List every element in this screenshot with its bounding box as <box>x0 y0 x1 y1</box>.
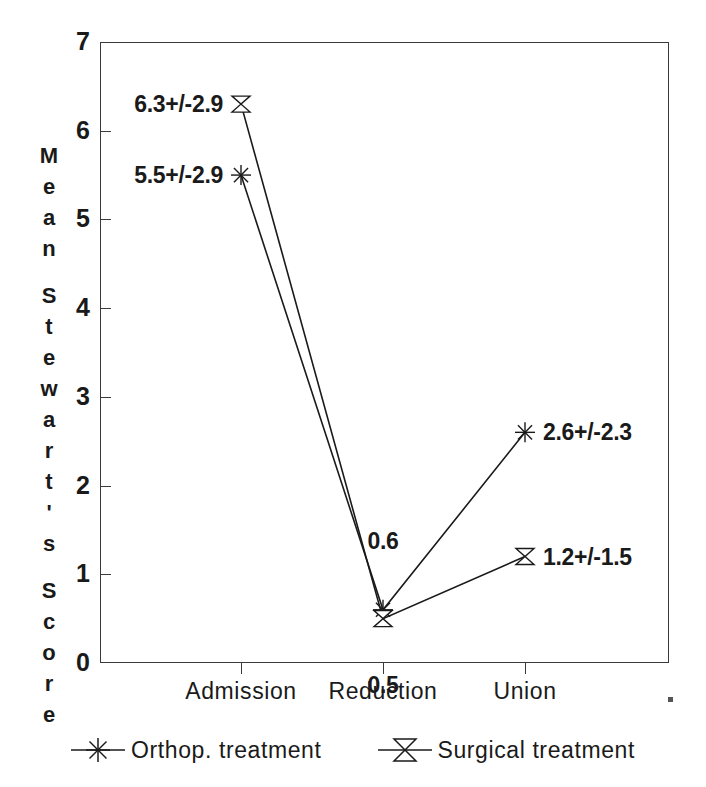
x-axis-tick <box>241 663 242 674</box>
data-label: 0.5 <box>367 674 398 697</box>
y-axis-tick-label: 7 <box>60 29 90 54</box>
y-axis-title-char: r <box>34 435 64 466</box>
y-axis-title-char: e <box>34 342 64 373</box>
y-axis-tick-label: 4 <box>60 295 90 320</box>
data-label: 1.2+/-1.5 <box>543 545 632 568</box>
legend-entry-surgical[interactable]: Surgical treatment <box>378 735 635 765</box>
legend-entry-orthop[interactable]: Orthop. treatment <box>71 735 321 765</box>
data-label: 6.3+/-2.9 <box>134 93 223 116</box>
y-axis-title-char: n <box>34 233 64 264</box>
y-axis-title-char: M <box>34 140 64 171</box>
y-axis-title-char: e <box>34 699 64 730</box>
y-axis-tick-label: 2 <box>60 473 90 498</box>
y-axis-tick <box>100 131 111 132</box>
y-axis-tick-label: 5 <box>60 206 90 231</box>
y-axis-tick <box>100 397 111 398</box>
data-label: 2.6+/-2.3 <box>543 421 632 444</box>
y-axis-title-char: e <box>34 171 64 202</box>
x-axis-tick <box>525 663 526 674</box>
chart-legend: Orthop. treatment Surgical treatment <box>0 735 706 765</box>
legend-label-surgical: Surgical treatment <box>438 739 635 762</box>
data-label: 5.5+/-2.9 <box>134 164 223 187</box>
y-axis-tick <box>100 486 111 487</box>
y-axis-tick-label: 3 <box>60 384 90 409</box>
y-axis-tick-label: 1 <box>60 561 90 586</box>
y-axis-tick <box>100 308 111 309</box>
data-label: 0.6 <box>367 529 398 552</box>
chart-figure: M e a n S t e w a r t ' s S c o r e 0123… <box>0 0 706 787</box>
x-axis-tick-label: Admission <box>185 679 297 704</box>
y-axis-title-space <box>34 264 64 280</box>
y-axis-tick <box>100 574 111 575</box>
y-axis-title-char: ' <box>34 497 64 528</box>
x-axis-tick-label: Union <box>493 679 556 704</box>
y-axis-title-char: s <box>34 528 64 559</box>
page-artifact-dot <box>668 697 673 702</box>
y-axis-tick-label: 6 <box>60 118 90 143</box>
y-axis-tick <box>100 219 111 220</box>
asterisk-marker <box>71 735 125 765</box>
y-axis-title-char: c <box>34 606 64 637</box>
bowtie-marker <box>378 735 432 765</box>
y-axis-tick-label: 0 <box>60 650 90 675</box>
plot-area-frame <box>100 42 669 663</box>
legend-label-orthop: Orthop. treatment <box>131 739 321 762</box>
